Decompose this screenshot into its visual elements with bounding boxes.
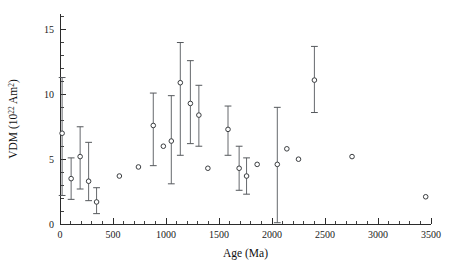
axis-label-group: 0500100015002000250030003500051015Age (M… xyxy=(7,24,442,260)
data-point-marker xyxy=(206,166,211,171)
data-point-marker xyxy=(244,174,249,179)
vdm-vs-age-figure: 0500100015002000250030003500051015Age (M… xyxy=(0,0,458,268)
y-tick-label: 0 xyxy=(49,219,54,230)
data-point-marker xyxy=(117,174,122,179)
data-point-marker xyxy=(350,154,355,159)
data-point-marker xyxy=(178,80,183,85)
data-point-marker xyxy=(136,165,141,170)
data-point-marker xyxy=(296,157,301,162)
data-point-marker xyxy=(197,113,202,118)
scatter-plot-canvas: 0500100015002000250030003500051015Age (M… xyxy=(0,0,458,268)
y-tick-label: 15 xyxy=(44,24,54,35)
data-point-marker xyxy=(423,194,428,199)
data-point-marker xyxy=(151,123,156,128)
y-axis-title: VDM (1022 Am2) xyxy=(7,79,21,159)
data-point-marker xyxy=(275,162,280,167)
data-point-marker xyxy=(169,139,174,144)
x-tick-label: 2500 xyxy=(315,229,335,240)
data-point-marker xyxy=(86,179,91,184)
data-point-marker xyxy=(94,200,99,205)
data-point-marker xyxy=(161,144,166,149)
x-axis-title: Age (Ma) xyxy=(223,247,268,260)
data-point-marker xyxy=(69,176,74,181)
y-tick-label: 10 xyxy=(44,89,54,100)
data-point-marker xyxy=(188,101,193,106)
data-point-marker xyxy=(255,162,260,167)
x-tick-label: 1000 xyxy=(156,229,176,240)
data-point-marker xyxy=(226,127,231,132)
y-tick-label: 5 xyxy=(49,154,54,165)
data-point-marker xyxy=(60,131,65,136)
x-tick-label: 0 xyxy=(58,229,63,240)
data-point-marker xyxy=(312,78,317,83)
x-tick-label: 500 xyxy=(106,229,121,240)
data-point-marker xyxy=(78,154,83,159)
axis-group xyxy=(60,14,431,224)
x-tick-label: 3000 xyxy=(368,229,388,240)
data-point-marker xyxy=(285,147,290,152)
data-point-group xyxy=(59,43,428,223)
data-point-marker xyxy=(237,166,242,171)
x-tick-label: 1500 xyxy=(209,229,229,240)
x-tick-label: 2000 xyxy=(262,229,282,240)
x-tick-label: 3500 xyxy=(421,229,441,240)
